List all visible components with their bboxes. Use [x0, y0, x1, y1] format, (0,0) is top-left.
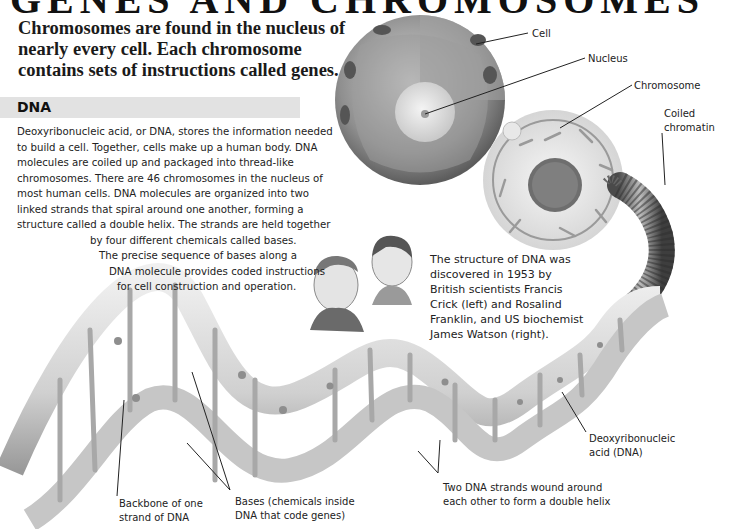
label-line: Backbone of one [119, 497, 203, 511]
label-line: Two DNA strands wound around [443, 481, 610, 495]
body-line: molecules are coiled up and packaged int… [17, 155, 333, 171]
dna-section-heading: DNA [0, 97, 300, 118]
caption-line: James Watson (right). [430, 327, 583, 342]
label-line: Deoxyribonucleic [589, 432, 675, 446]
body-line: for cell construction and operation. [17, 279, 333, 295]
nucleus-illustration [483, 110, 623, 250]
caption-line: Crick (left) and Rosalind [430, 297, 583, 312]
label-coiled-chromatin: Coiled chromatin [664, 107, 715, 134]
label-line: strand of DNA [119, 511, 203, 525]
caption-line: The structure of DNA was [430, 252, 583, 267]
caption-line: Franklin, and US biochemist [430, 312, 583, 327]
caption-line: British scientists Francis [430, 282, 583, 297]
label-dna: Deoxyribonucleic acid (DNA) [589, 432, 675, 459]
label-line: chromatin [664, 121, 715, 135]
body-line: by four different chemicals called bases… [17, 233, 333, 249]
dna-section-heading-band: DNA [0, 97, 300, 118]
caption-line: discovered in 1953 by [430, 267, 583, 282]
label-backbone: Backbone of one strand of DNA [119, 497, 203, 524]
body-line: The precise sequence of bases along a [17, 248, 333, 264]
label-line: each other to form a double helix [443, 495, 610, 509]
discovery-caption: The structure of DNA was discovered in 1… [430, 252, 583, 342]
body-line: Deoxyribonucleic acid, or DNA, stores th… [17, 124, 333, 140]
body-line: structure called a double helix. The str… [17, 217, 333, 233]
body-line: DNA molecule provides coded instructions [17, 264, 333, 280]
body-line: most human cells. DNA molecules are orga… [17, 186, 333, 202]
body-line: linked strands that spiral around one an… [17, 202, 333, 218]
label-chromosome: Chromosome [634, 79, 700, 93]
label-bases: Bases (chemicals inside DNA that code ge… [235, 495, 355, 522]
cell-illustration [335, 15, 505, 185]
body-line: to build a cell. Together, cells make up… [17, 140, 333, 156]
label-line: Bases (chemicals inside [235, 495, 355, 509]
body-line: chromosomes. There are 46 chromosomes in… [17, 171, 333, 187]
label-line: Coiled [664, 107, 715, 121]
label-two-strands: Two DNA strands wound around each other … [443, 481, 610, 508]
label-line: acid (DNA) [589, 446, 675, 460]
dna-body-text: Deoxyribonucleic acid, or DNA, stores th… [17, 124, 333, 295]
intro-text: Chromosomes are found in the nucleus of … [18, 18, 348, 81]
label-nucleus: Nucleus [588, 52, 628, 66]
label-line: DNA that code genes) [235, 509, 355, 523]
label-cell: Cell [532, 27, 551, 41]
